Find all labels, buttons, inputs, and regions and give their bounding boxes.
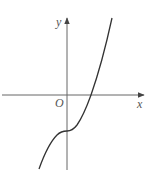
x-axis-label: x: [136, 97, 143, 111]
function-curve: [39, 18, 112, 169]
function-graph: y x O: [0, 0, 152, 182]
origin-label: O: [55, 96, 64, 110]
y-axis-label: y: [55, 15, 62, 29]
